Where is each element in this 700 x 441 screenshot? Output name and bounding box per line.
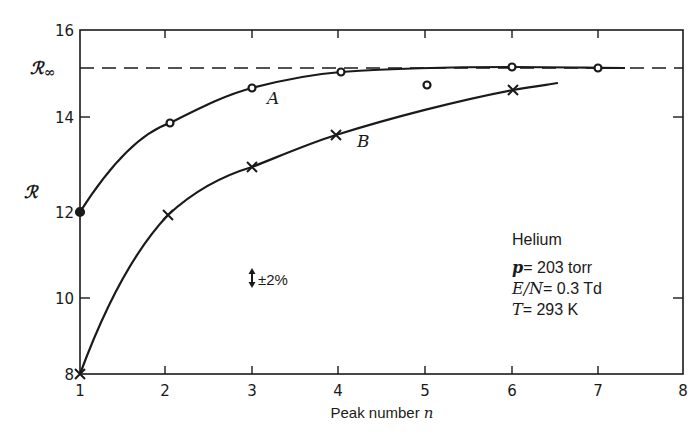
- data-point-b-2: [163, 210, 173, 220]
- data-point-a-7: [595, 65, 602, 72]
- y-tick-labels: 16 14 12 10 8: [55, 22, 74, 384]
- series-b-markers: [75, 85, 518, 379]
- svg-text:8: 8: [678, 382, 688, 400]
- svg-text:12: 12: [55, 204, 74, 222]
- svg-text:16: 16: [55, 22, 74, 40]
- svg-text:5: 5: [420, 382, 430, 400]
- error-bar-label: ±2%: [258, 271, 288, 288]
- x-ticks: [165, 30, 598, 374]
- curve-a-label: A: [265, 88, 279, 108]
- data-point-a-5: [424, 82, 431, 89]
- gas-label: Helium: [512, 230, 562, 250]
- chart-svg: 1 2 3 4 5 6 7 8 16 14 12 10 8 Peak numbe…: [0, 0, 700, 441]
- svg-text:7: 7: [593, 382, 603, 400]
- svg-text:8: 8: [64, 366, 74, 384]
- svg-text:2: 2: [160, 382, 170, 400]
- plot-frame: [80, 30, 683, 374]
- field-label: E/N= 0.3 Td: [512, 279, 602, 299]
- data-point-a-1: [76, 208, 84, 216]
- error-bar-icon: [249, 268, 256, 288]
- y-ticks: [80, 117, 683, 298]
- temperature-label: T= 293 K: [512, 300, 578, 320]
- y-axis-label: ℛ: [24, 182, 39, 202]
- svg-text:1: 1: [75, 382, 85, 400]
- x-tick-labels: 1 2 3 4 5 6 7 8: [75, 382, 688, 400]
- svg-text:4: 4: [333, 382, 343, 400]
- curve-b: [80, 83, 558, 374]
- data-point-a-4: [338, 69, 345, 76]
- r-infinity-label: ℛ∞: [30, 58, 56, 80]
- svg-text:14: 14: [55, 109, 74, 127]
- curve-b-label: B: [356, 131, 370, 151]
- data-point-a-6: [509, 64, 516, 71]
- x-axis-label: Peak number n: [330, 404, 433, 422]
- curve-a: [80, 67, 625, 212]
- data-point-a-2: [167, 120, 174, 127]
- data-point-a-3: [249, 85, 256, 92]
- svg-text:10: 10: [55, 290, 74, 308]
- pressure-label: p= 203 torr: [512, 258, 592, 278]
- svg-text:6: 6: [507, 382, 517, 400]
- svg-text:3: 3: [247, 382, 257, 400]
- series-a-markers: [76, 64, 602, 217]
